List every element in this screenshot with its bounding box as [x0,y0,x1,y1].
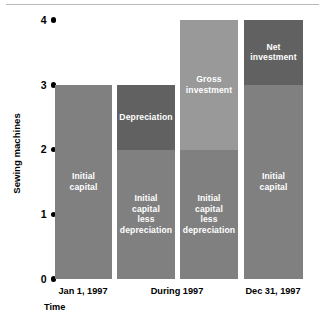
x-axis-label-during-1997: During 1997 [127,286,227,296]
bar-segment-label: Depreciation [119,112,172,122]
bar-segment-label: Initial capital [260,171,288,192]
y-tick-3: 3 [28,78,56,92]
y-tick-0: 0 [28,272,56,286]
y-tick-label-1: 1 [41,209,47,220]
bar-segment-initial-capital-less-depreciation: Initial capital less depreciation [180,150,238,280]
bar-segment-label: Initial capital less depreciation [120,193,172,235]
bar-segment-initial-capital: Initial capital [244,85,303,279]
x-axis-title: Time [44,302,65,312]
bar-segment-net-investment: Net investment [244,20,303,85]
bar-segment-gross-investment: Gross investment [180,20,238,150]
y-tick-label-3: 3 [41,80,47,91]
chart-figure: 4 3 2 1 0 Initial capital Initia [0,0,323,323]
y-tick-1: 1 [28,207,56,221]
y-tick-label-4: 4 [41,15,47,26]
bar-segment-initial-capital-less-depreciation: Initial capital less depreciation [117,150,175,280]
bar-net-investment: Initial capital Net investment [244,20,303,279]
y-tick-label-2: 2 [41,144,47,155]
bar-segment-label: Initial capital [70,171,98,192]
y-tick-label-0: 0 [41,274,47,285]
bar-segment-initial-capital: Initial capital [55,85,112,279]
bar-gross-investment: Initial capital less depreciation Gross … [180,20,238,279]
plot-area: 4 3 2 1 0 Initial capital Initia [0,0,323,323]
bar-segment-label: Initial capital less depreciation [183,193,235,235]
y-axis-title: Sewing machines [11,94,22,214]
bar-initial-capital: Initial capital [55,85,112,279]
y-tick-2: 2 [28,143,56,157]
bar-segment-depreciation: Depreciation [117,85,175,150]
bar-segment-label: Net investment [250,42,296,63]
x-axis-label-jan-1-1997: Jan 1, 1997 [33,286,133,296]
y-tick-marker-icon [51,17,57,23]
x-axis-label-dec-31-1997: Dec 31, 1997 [223,286,323,296]
y-tick-4: 4 [28,13,56,27]
bar-depreciation: Initial capital less depreciation Deprec… [117,85,175,279]
bar-segment-label: Gross investment [186,74,232,95]
